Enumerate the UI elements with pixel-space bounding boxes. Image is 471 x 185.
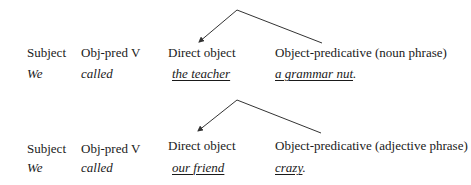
value-object-predicative-text: a grammar nut bbox=[275, 66, 353, 81]
value-object-predicative-text: crazy bbox=[275, 160, 302, 175]
diagram-adjective-phrase: Subject Obj-pred V Direct object Object-… bbox=[0, 90, 471, 180]
trailing-period: . bbox=[353, 66, 356, 81]
relation-arrow-icon bbox=[0, 90, 471, 180]
label-direct-object: Direct object bbox=[168, 45, 236, 61]
value-subject: We bbox=[27, 66, 42, 82]
label-subject: Subject bbox=[27, 141, 66, 157]
value-object-predicative: a grammar nut. bbox=[275, 66, 356, 82]
diagram-noun-phrase: Subject Obj-pred V Direct object Object-… bbox=[0, 0, 471, 90]
value-subject: We bbox=[27, 160, 42, 176]
value-verb: called bbox=[81, 160, 113, 176]
label-object-predicative: Object-predicative (adjective phrase) bbox=[275, 138, 468, 154]
label-obj-pred-verb: Obj-pred V bbox=[81, 45, 140, 61]
value-verb: called bbox=[81, 66, 113, 82]
label-direct-object: Direct object bbox=[168, 138, 236, 154]
value-object-predicative: crazy. bbox=[275, 160, 306, 176]
value-direct-object: the teacher bbox=[172, 66, 230, 82]
value-direct-object: our friend bbox=[172, 160, 224, 176]
label-object-predicative: Object-predicative (noun phrase) bbox=[275, 45, 447, 61]
trailing-period: . bbox=[302, 160, 305, 175]
label-obj-pred-verb: Obj-pred V bbox=[81, 141, 140, 157]
label-subject: Subject bbox=[27, 45, 66, 61]
